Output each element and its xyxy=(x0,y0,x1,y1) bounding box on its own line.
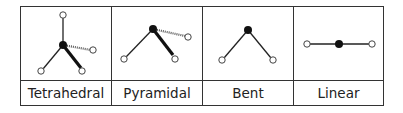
tetrahedral-image-cell xyxy=(21,7,112,81)
bent-label: Bent xyxy=(203,81,294,105)
pyramidal-molecule-icon xyxy=(112,7,203,81)
pyramidal-image-cell xyxy=(112,7,203,81)
tetrahedral-label: Tetrahedral xyxy=(21,81,112,105)
bent-molecule-icon xyxy=(203,7,294,81)
pyramidal-label: Pyramidal xyxy=(112,81,203,105)
tetrahedral-molecule-icon xyxy=(21,7,112,81)
bent-image-cell xyxy=(203,7,294,81)
linear-image-cell xyxy=(294,7,383,81)
linear-molecule-icon xyxy=(294,7,385,81)
molecular-geometry-table: Tetrahedral Pyramidal Bent Linear xyxy=(20,6,384,106)
linear-label: Linear xyxy=(294,81,383,105)
